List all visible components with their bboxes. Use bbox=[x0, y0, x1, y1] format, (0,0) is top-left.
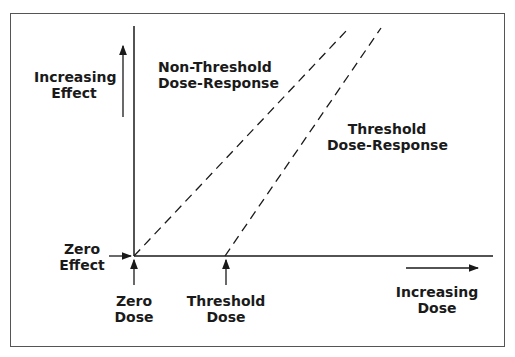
threshold-dose-label: Threshold Dose bbox=[186, 293, 266, 325]
x-axis-label: Increasing Dose bbox=[395, 284, 479, 316]
threshold-curve-label: Threshold Dose-Response bbox=[327, 121, 447, 153]
zero-effect-label: Zero Effect bbox=[58, 241, 106, 273]
non-threshold-label: Non-Threshold Dose-Response bbox=[158, 59, 270, 91]
y-axis-label: Increasing Effect bbox=[34, 69, 114, 101]
zero-dose-label: Zero Dose bbox=[112, 293, 156, 325]
